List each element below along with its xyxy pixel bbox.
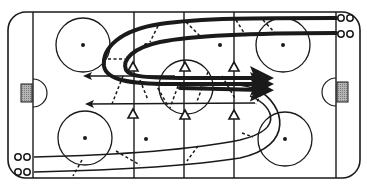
faceoff-dot	[281, 43, 285, 47]
faceoff-dot	[81, 43, 85, 47]
faceoff-dot	[83, 136, 87, 140]
right-net-icon	[337, 82, 348, 102]
left-net-icon	[21, 84, 32, 102]
hockey-rink-diagram	[0, 0, 367, 190]
faceoff-dot	[283, 137, 287, 141]
faceoff-dot	[218, 43, 222, 47]
thick-path-3	[180, 88, 262, 90]
faceoff-dot	[144, 137, 148, 141]
